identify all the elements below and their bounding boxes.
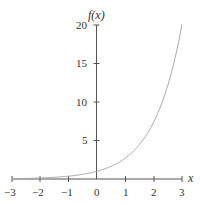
y-tick-label-20: 20 bbox=[76, 20, 87, 31]
x-tick-label-1: 1 bbox=[123, 187, 129, 198]
x-tick-label-m1: −1 bbox=[61, 187, 73, 198]
x-tick-label-m2: −2 bbox=[32, 187, 44, 198]
x-tick-label-0: 0 bbox=[94, 187, 100, 198]
x-tick-label-m3: −3 bbox=[4, 187, 16, 198]
y-tick-label-5: 5 bbox=[82, 135, 88, 146]
x-axis-label: x bbox=[188, 172, 193, 184]
y-tick-label-10: 10 bbox=[76, 97, 87, 108]
x-tick-label-2: 2 bbox=[151, 187, 157, 198]
y-tick-label-15: 15 bbox=[76, 58, 87, 69]
y-axis-label: f(x) bbox=[88, 9, 105, 21]
chart-plot-area bbox=[0, 0, 201, 204]
x-tick-label-3: 3 bbox=[179, 187, 185, 198]
